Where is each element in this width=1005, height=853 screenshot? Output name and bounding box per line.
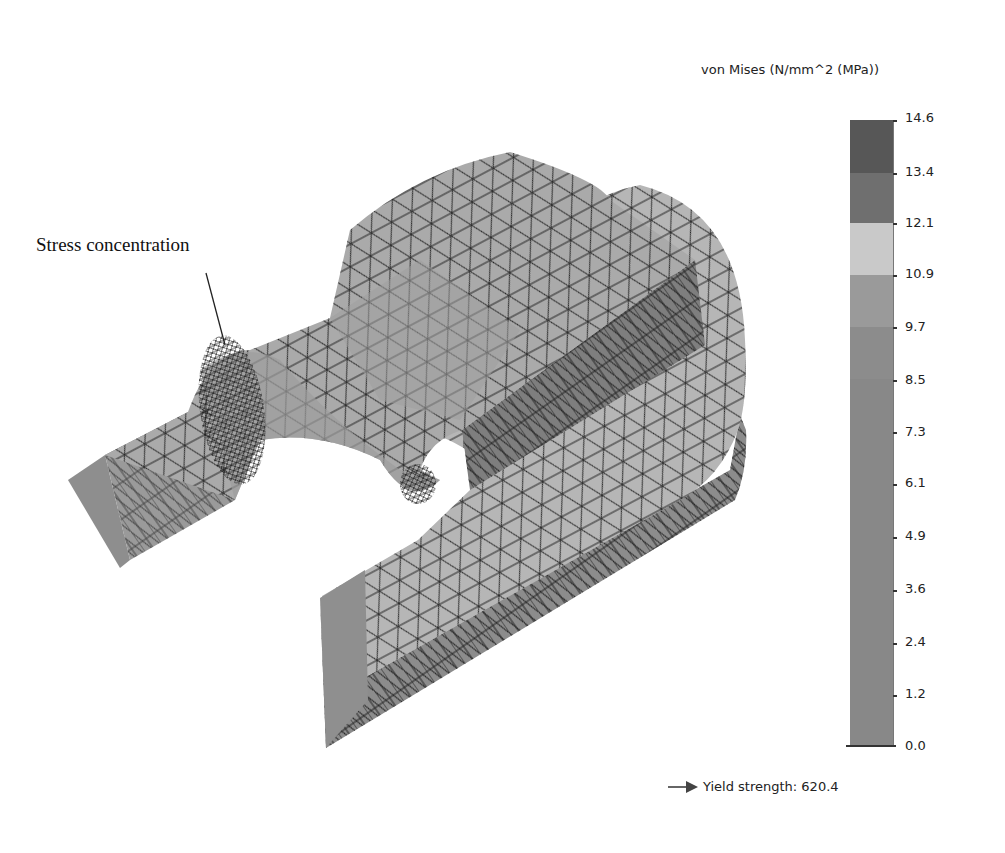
legend-tick-label: 6.1 — [905, 475, 926, 490]
legend-tick — [893, 327, 897, 329]
legend-tick-label: 10.9 — [905, 266, 934, 281]
annotation-leader-line — [206, 273, 225, 345]
legend-tick — [893, 695, 897, 697]
legend-tick-label: 7.3 — [905, 424, 926, 439]
legend-tick — [893, 590, 897, 592]
legend-tick — [893, 380, 897, 382]
legend-tick — [893, 484, 897, 486]
legend-band — [850, 275, 893, 327]
legend-band — [850, 120, 893, 173]
legend-tick-label: 13.4 — [905, 164, 934, 179]
stress-color-bar — [850, 120, 894, 746]
legend-tick — [893, 173, 897, 175]
stress-hotspot-2 — [400, 464, 436, 504]
legend-band — [850, 173, 893, 223]
legend-tick-label: 12.1 — [905, 215, 934, 230]
legend-tick-label: 2.4 — [905, 634, 926, 649]
legend-baseline — [846, 745, 896, 747]
legend-tick-label: 4.9 — [905, 528, 926, 543]
legend-tick-label: 14.6 — [905, 110, 934, 125]
legend-tick — [893, 643, 897, 645]
fea-mesh-model — [0, 0, 840, 853]
legend-tick — [893, 432, 897, 434]
legend-tick-label: 1.2 — [905, 686, 926, 701]
legend-tick-label: 9.7 — [905, 319, 926, 334]
legend-band — [850, 223, 893, 275]
legend-band — [850, 327, 893, 379]
legend-tick — [893, 275, 897, 277]
legend-tick — [893, 120, 897, 122]
legend-tick-label: 8.5 — [905, 372, 926, 387]
legend-tick-label: 0.0 — [905, 738, 926, 753]
legend-tick — [893, 223, 897, 225]
legend-band — [850, 379, 893, 746]
legend-tick-label: 3.6 — [905, 581, 926, 596]
legend-tick — [893, 537, 897, 539]
